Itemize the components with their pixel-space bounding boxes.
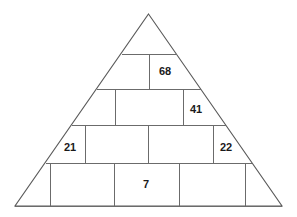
cell-value-7: 7: [143, 178, 149, 190]
cell-value-68: 68: [159, 65, 171, 77]
cell-value-41: 41: [190, 103, 202, 115]
pyramid-puzzle-figure: 68 41 21 22 7: [0, 0, 297, 217]
cell-value-22: 22: [220, 141, 232, 153]
pyramid-diagram: 68 41 21 22 7: [0, 0, 297, 217]
cell-value-21: 21: [64, 141, 76, 153]
